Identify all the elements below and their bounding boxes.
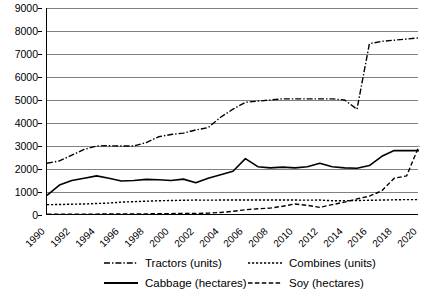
legend-item-soy: Soy (hectares) <box>248 274 364 292</box>
y-tick-mark <box>38 54 42 55</box>
y-tick-mark <box>38 169 42 170</box>
y-tick-mark <box>38 100 42 101</box>
y-tick-mark <box>38 192 42 193</box>
y-tick-mark <box>38 123 42 124</box>
legend-item-cabbage: Cabbage (hectares) <box>104 274 247 292</box>
x-tick-label: 2014 <box>322 226 345 249</box>
x-tick-label: 1994 <box>74 226 97 249</box>
series-line-cabbage <box>47 151 419 196</box>
x-tick-label: 2006 <box>222 226 245 249</box>
y-tick-label: 3000 <box>15 141 38 152</box>
x-tick-label: 1996 <box>98 226 121 249</box>
y-tick-label: 1000 <box>15 187 38 198</box>
y-axis: 9000800070006000500040003000200010000 <box>0 8 42 215</box>
y-tick-mark <box>38 215 42 216</box>
series-line-tractors <box>47 38 419 163</box>
line-chart: 9000800070006000500040003000200010000 19… <box>0 0 426 296</box>
y-tick-label: 5000 <box>15 95 38 106</box>
y-tick-label: 4000 <box>15 118 38 129</box>
series-layer <box>47 8 419 215</box>
x-tick-label: 2002 <box>173 226 196 249</box>
legend-item-combines: Combines (units) <box>248 254 376 272</box>
legend-swatch-dashed-icon <box>248 277 282 289</box>
x-tick-label: 2010 <box>272 226 295 249</box>
x-tick-label: 2018 <box>371 226 394 249</box>
y-tick-mark <box>38 31 42 32</box>
y-tick-mark <box>38 146 42 147</box>
y-tick-mark <box>38 77 42 78</box>
legend-label-cabbage: Cabbage (hectares) <box>145 277 247 289</box>
series-line-soy <box>47 146 419 214</box>
x-tick-label: 2020 <box>396 226 419 249</box>
x-tick-label: 2016 <box>346 226 369 249</box>
y-tick-label: 2000 <box>15 164 38 175</box>
y-tick-label: 8000 <box>15 26 38 37</box>
series-line-combines <box>47 200 419 205</box>
x-tick-label: 2012 <box>297 226 320 249</box>
x-tick-label: 1998 <box>123 226 146 249</box>
y-tick-mark <box>38 8 42 9</box>
legend-swatch-dash-dot-icon <box>104 257 138 269</box>
y-tick-label: 9000 <box>15 3 38 14</box>
x-tick-label: 2000 <box>148 226 171 249</box>
x-tick-label: 1992 <box>49 226 72 249</box>
y-tick-label: 6000 <box>15 72 38 83</box>
plot-area <box>46 8 418 215</box>
chart-legend: Tractors (units) Cabbage (hectares) Comb… <box>0 252 426 296</box>
x-tick-label: 1990 <box>24 226 47 249</box>
legend-swatch-solid-icon <box>104 277 138 289</box>
y-tick-label: 7000 <box>15 49 38 60</box>
legend-item-tractors: Tractors (units) <box>104 254 222 272</box>
legend-label-tractors: Tractors (units) <box>145 257 222 269</box>
x-axis: 1990199219941996199820002002200420062008… <box>46 216 418 252</box>
legend-label-combines: Combines (units) <box>289 257 376 269</box>
legend-label-soy: Soy (hectares) <box>289 277 364 289</box>
x-tick-label: 2008 <box>247 226 270 249</box>
x-tick-label: 2004 <box>198 226 221 249</box>
legend-swatch-dotted-icon <box>248 257 282 269</box>
